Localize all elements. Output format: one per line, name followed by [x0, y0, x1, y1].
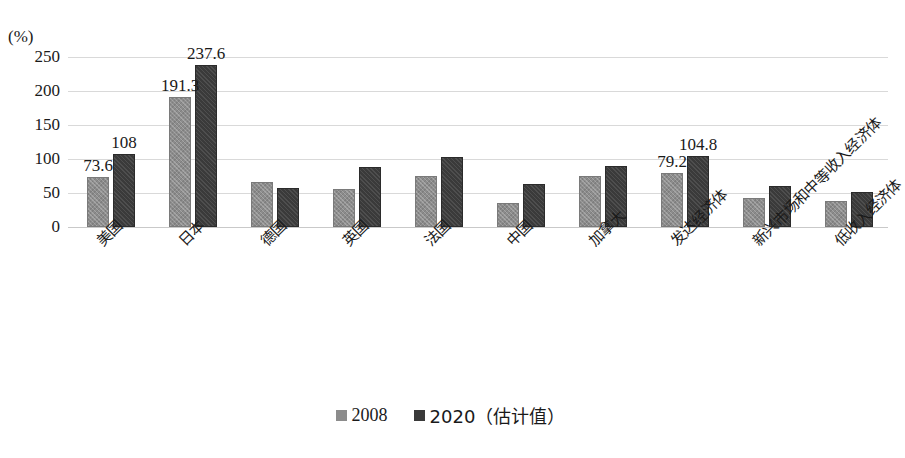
bar-value-label: 237.6 — [187, 45, 225, 62]
y-axis-tick-150: 150 — [10, 116, 60, 133]
bar-value-label: 79.2 — [657, 153, 687, 170]
y-axis-tick-0: 0 — [10, 218, 60, 235]
y-axis-tick-50: 50 — [10, 184, 60, 201]
bar-value-label: 104.8 — [679, 136, 717, 153]
bar-group — [415, 57, 463, 227]
y-axis-unit-label: (%) — [8, 27, 33, 47]
bar-2020估计值-英国[interactable] — [359, 167, 381, 227]
bar-group — [497, 57, 545, 227]
legend-label: 2020（估计值） — [430, 402, 566, 428]
bar-group — [251, 57, 299, 227]
bar-value-label: 73.6 — [83, 157, 113, 174]
bar-group — [579, 57, 627, 227]
legend-label: 2008 — [352, 405, 388, 426]
bar-2008-日本[interactable] — [169, 97, 191, 227]
plot-area: 73.6108191.3237.679.2104.8 — [68, 57, 888, 227]
legend-swatch-icon — [336, 410, 347, 421]
legend-item-0[interactable]: 2008 — [336, 405, 388, 426]
legend-swatch-icon — [414, 410, 425, 421]
bar-group — [333, 57, 381, 227]
y-axis-tick-250: 250 — [10, 48, 60, 65]
y-axis-tick-200: 200 — [10, 82, 60, 99]
bar-2020估计值-法国[interactable] — [441, 157, 463, 227]
bar-2020估计值-美国[interactable] — [113, 154, 135, 227]
bar-value-label: 191.3 — [161, 77, 199, 94]
chart-legend: 20082020（估计值） — [0, 402, 901, 428]
bar-value-label: 108 — [111, 134, 137, 151]
y-axis-tick-100: 100 — [10, 150, 60, 167]
legend-item-1[interactable]: 2020（估计值） — [414, 402, 566, 428]
